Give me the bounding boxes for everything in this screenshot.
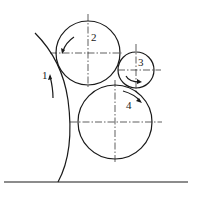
roller-diagram: 1 2 3 4 [0, 0, 202, 200]
label-4: 4 [126, 99, 132, 111]
rotation-arrow-2 [61, 37, 74, 54]
label-1: 1 [42, 69, 48, 81]
rotation-arrow-3 [126, 76, 142, 84]
curved-surface-1 [35, 33, 70, 182]
label-3: 3 [138, 56, 144, 68]
label-2: 2 [91, 31, 97, 43]
rotation-arrow-1 [48, 74, 53, 98]
